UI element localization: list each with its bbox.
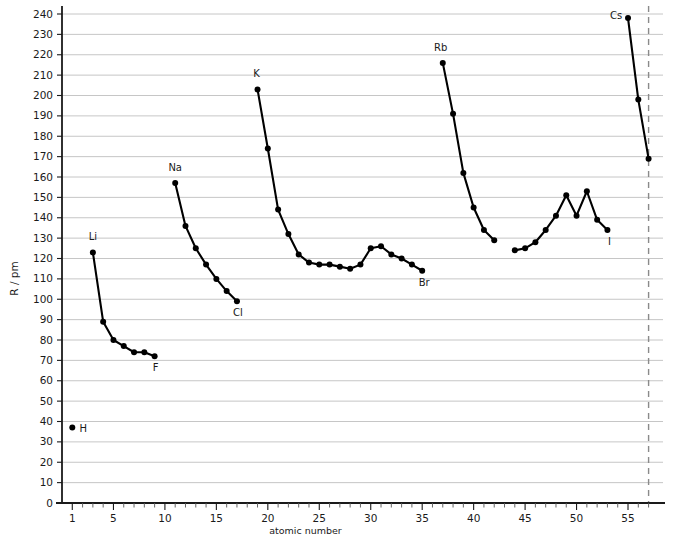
chart-canvas: 0102030405060708090100110120130140150160…: [0, 0, 677, 541]
element-label-na: Na: [168, 162, 182, 173]
data-point: [563, 192, 569, 198]
data-point: [419, 268, 425, 274]
data-point: [296, 251, 302, 257]
element-label-cl: Cl: [233, 307, 243, 318]
element-label-f: F: [153, 362, 159, 373]
y-axis-title: R / pm: [8, 261, 20, 295]
y-axis-tick-label: 240: [33, 8, 53, 20]
data-point: [90, 249, 96, 255]
data-point: [522, 245, 528, 251]
element-label-br: Br: [419, 277, 431, 288]
data-point: [141, 349, 147, 355]
y-axis-tick-label: 120: [33, 252, 53, 264]
data-point: [460, 170, 466, 176]
data-point: [347, 266, 353, 272]
data-point: [100, 319, 106, 325]
y-axis-tick-label: 180: [33, 130, 53, 142]
y-axis-tick-label: 160: [33, 171, 53, 183]
data-point: [409, 262, 415, 268]
data-point: [121, 343, 127, 349]
y-axis-tick-label: 190: [33, 109, 53, 121]
data-point: [625, 15, 631, 21]
y-axis-tick-label: 30: [40, 435, 53, 447]
data-point: [182, 223, 188, 229]
data-point: [604, 227, 610, 233]
element-label-rb: Rb: [434, 42, 447, 53]
data-point: [584, 188, 590, 194]
data-point: [110, 337, 116, 343]
data-point: [481, 227, 487, 233]
y-axis-tick-label: 50: [40, 395, 53, 407]
radius-vs-atomic-number-chart: 0102030405060708090100110120130140150160…: [0, 0, 677, 541]
data-point: [543, 227, 549, 233]
y-axis-tick-label: 130: [33, 232, 53, 244]
data-point: [574, 213, 580, 219]
y-axis-tick-label: 140: [33, 211, 53, 223]
chart-background: [0, 0, 677, 541]
y-axis-tick-label: 100: [33, 293, 53, 305]
element-label-k: K: [253, 68, 260, 79]
x-axis-tick-label: 45: [518, 512, 531, 524]
data-point: [553, 213, 559, 219]
y-axis-tick-label: 80: [40, 334, 53, 346]
data-point: [646, 156, 652, 162]
data-point: [388, 251, 394, 257]
data-point: [440, 60, 446, 66]
x-axis-tick-label: 25: [313, 512, 326, 524]
y-axis-tick-label: 20: [40, 456, 53, 468]
element-label-i: I: [608, 236, 611, 247]
x-axis-tick-label: 1: [69, 512, 76, 524]
data-point: [131, 349, 137, 355]
y-axis-tick-label: 60: [40, 374, 53, 386]
element-label-cs: Cs: [610, 10, 622, 21]
x-axis-tick-label: 10: [158, 512, 171, 524]
data-point: [172, 180, 178, 186]
x-axis-title: atomic number: [269, 525, 342, 536]
data-point: [285, 231, 291, 237]
data-point: [491, 237, 497, 243]
x-axis-tick-label: 5: [110, 512, 117, 524]
data-point: [265, 145, 271, 151]
data-point: [532, 239, 538, 245]
y-axis-tick-label: 150: [33, 191, 53, 203]
y-axis-tick-label: 170: [33, 150, 53, 162]
data-point: [203, 262, 209, 268]
y-axis-tick-label: 230: [33, 28, 53, 40]
data-point: [471, 205, 477, 211]
y-axis-tick-label: 220: [33, 48, 53, 60]
y-axis-tick-label: 200: [33, 89, 53, 101]
data-point: [213, 276, 219, 282]
x-axis-tick-label: 40: [467, 512, 480, 524]
x-axis-tick-label: 35: [416, 512, 429, 524]
data-point: [152, 353, 158, 359]
data-point: [512, 247, 518, 253]
x-axis-tick-label: 20: [261, 512, 274, 524]
data-point: [368, 245, 374, 251]
data-point: [255, 86, 261, 92]
data-point: [224, 288, 230, 294]
data-point: [316, 262, 322, 268]
data-point: [275, 207, 281, 213]
data-point: [327, 262, 333, 268]
y-axis-tick-label: 210: [33, 69, 53, 81]
data-point: [193, 245, 199, 251]
y-axis-tick-label: 10: [40, 476, 53, 488]
x-axis-tick-label: 15: [210, 512, 223, 524]
data-point: [450, 111, 456, 117]
data-point: [635, 97, 641, 103]
data-point: [234, 298, 240, 304]
y-axis-tick-label: 110: [33, 272, 53, 284]
data-point: [378, 243, 384, 249]
y-axis-tick-label: 40: [40, 415, 53, 427]
data-point: [399, 256, 405, 262]
element-label-h: H: [80, 423, 88, 434]
x-axis-tick-label: 50: [570, 512, 583, 524]
data-point: [69, 425, 75, 431]
element-label-li: Li: [89, 231, 97, 242]
data-point: [306, 260, 312, 266]
x-axis-tick-label: 30: [364, 512, 377, 524]
y-axis-tick-label: 90: [40, 313, 53, 325]
y-axis-tick-label: 70: [40, 354, 53, 366]
data-point: [357, 262, 363, 268]
data-point: [337, 264, 343, 270]
